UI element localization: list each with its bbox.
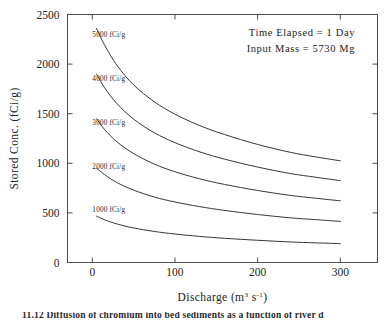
y-tick-label-2000: 2000 [37,58,60,70]
curve-label-0: 5000 fCi/g [92,31,125,39]
figure-container: 010020030005001000150020002500Stored Con… [0,0,392,323]
y-tick-label-1500: 1500 [37,108,60,120]
x-axis-title: Discharge (m3 s-1) [178,291,268,304]
y-tick-label-0: 0 [54,257,60,269]
x-tick-label-200: 200 [249,266,267,278]
y-tick-label-2500: 2500 [37,9,60,21]
curve-label-3: 2000 fCi/g [92,163,125,171]
discharge-vs-stored-concentration-chart: 010020030005001000150020002500Stored Con… [0,0,392,323]
curve-label-2: 3000 fCi/g [92,119,125,127]
figure-caption: 11.12 Diffusion of chromium into bed sed… [22,312,324,320]
curve-label-1: 4000 fCi/g [92,75,125,83]
figure-caption-strip: 11.12 Diffusion of chromium into bed sed… [0,312,392,323]
x-tick-label-0: 0 [89,266,95,278]
curve-4000-fci-g [96,74,340,181]
x-tick-label-300: 300 [332,266,350,278]
curve-1000-fci-g [96,216,340,244]
curve-3000-fci-g [96,119,340,201]
annotation-0: Time Elapsed = 1 Day [249,27,355,38]
curve-label-4: 1000 fCi/g [92,206,125,214]
y-tick-label-500: 500 [42,207,60,219]
annotation-1: Input Mass = 5730 Mg [247,43,355,54]
y-tick-label-1000: 1000 [37,157,60,169]
y-axis-title: Stored Conc. (fCi/g) [8,87,21,189]
x-tick-label-100: 100 [166,266,184,278]
